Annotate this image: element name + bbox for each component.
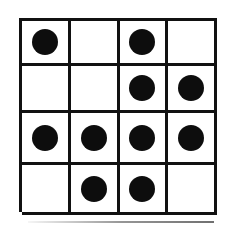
cell-r1c3 <box>120 21 169 66</box>
cell-r4c3 <box>120 165 169 215</box>
filled-dot-icon <box>178 125 204 151</box>
cell-r4c4 <box>168 165 217 215</box>
filled-dot-icon <box>129 29 155 55</box>
filled-dot-icon <box>129 75 155 101</box>
filled-dot-icon <box>178 75 204 101</box>
cell-r3c1 <box>22 113 71 165</box>
dot-matrix-grid <box>19 18 217 212</box>
cell-r4c1 <box>22 165 71 215</box>
cell-r2c4 <box>168 66 217 113</box>
cell-r1c4 <box>168 21 217 66</box>
cell-r4c2 <box>71 165 120 215</box>
cell-r3c2 <box>71 113 120 165</box>
scan-artifact-line <box>28 221 214 223</box>
filled-dot-icon <box>81 176 107 202</box>
filled-dot-icon <box>129 176 155 202</box>
cell-r1c2 <box>71 21 120 66</box>
filled-dot-icon <box>32 29 58 55</box>
filled-dot-icon <box>81 125 107 151</box>
filled-dot-icon <box>32 125 58 151</box>
cell-r1c1 <box>22 21 71 66</box>
cell-r2c2 <box>71 66 120 113</box>
cell-r2c3 <box>120 66 169 113</box>
cell-r3c3 <box>120 113 169 165</box>
figure-canvas <box>0 0 230 231</box>
cell-r3c4 <box>168 113 217 165</box>
filled-dot-icon <box>129 125 155 151</box>
cell-r2c1 <box>22 66 71 113</box>
